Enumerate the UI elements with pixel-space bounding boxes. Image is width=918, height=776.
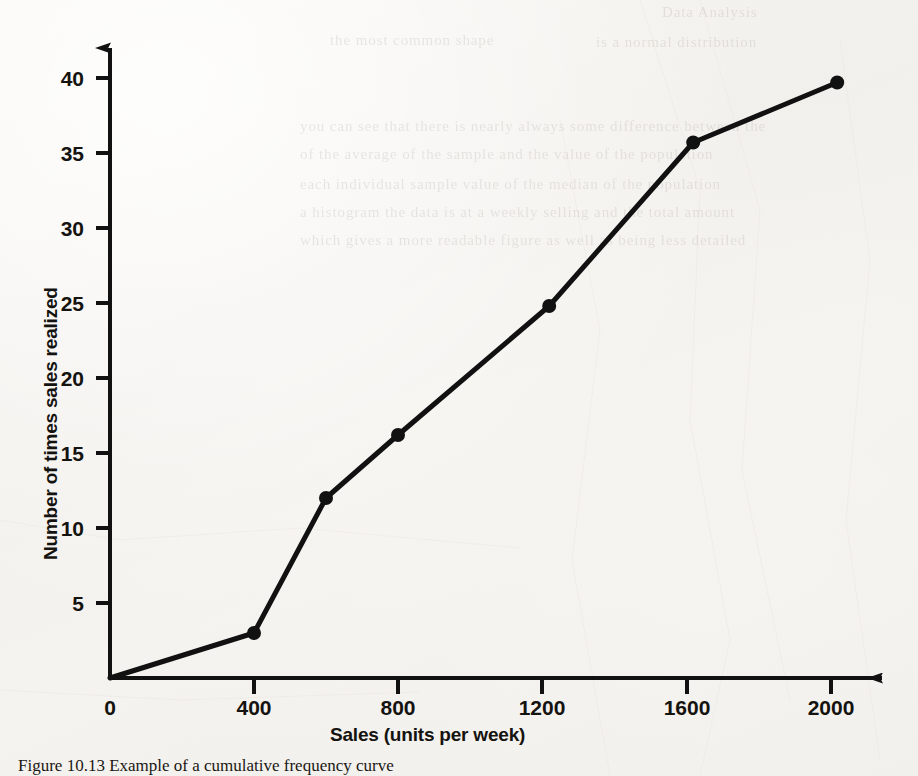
x-tick-label: 1200: [507, 696, 577, 720]
data-point-marker: [830, 76, 844, 90]
x-tick-label: 800: [363, 696, 433, 720]
data-point-marker: [319, 491, 333, 505]
y-tick-marks: [96, 78, 110, 603]
data-point-marker: [247, 626, 261, 640]
chart-svg: [0, 0, 918, 776]
data-series-line: [110, 83, 837, 679]
y-tick-label: 5: [36, 592, 84, 616]
line-chart: 5 10 15 20 25 30 35 40 0 400 800 1200 16…: [0, 0, 918, 776]
scanned-figure-page: Data Analysis the most common shape is a…: [0, 0, 918, 776]
y-tick-label: 40: [36, 67, 84, 91]
x-tick-label: 400: [219, 696, 289, 720]
y-axis-title: Number of times sales realized: [40, 287, 62, 560]
x-tick-label: 1600: [652, 696, 722, 720]
x-axis-title: Sales (units per week): [330, 724, 525, 746]
y-tick-label: 35: [36, 142, 84, 166]
data-point-marker: [542, 299, 556, 313]
x-tick-label: 0: [75, 696, 145, 720]
data-point-marker: [391, 428, 405, 442]
data-point-marker: [686, 136, 700, 150]
x-tick-marks: [254, 678, 831, 694]
y-tick-label: 30: [36, 217, 84, 241]
x-tick-label: 2000: [796, 696, 866, 720]
figure-caption: Figure 10.13 Example of a cumulative fre…: [18, 756, 394, 776]
data-point-markers: [247, 76, 844, 641]
